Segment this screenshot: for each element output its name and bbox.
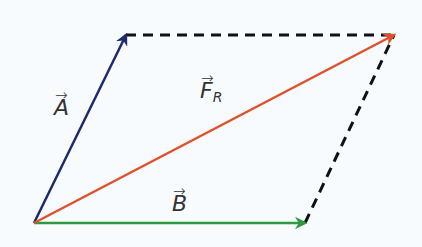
vector-a-label: → A: [54, 97, 69, 119]
vector-fr-arrow: [34, 35, 394, 223]
vector-arrow-icon: →: [201, 71, 214, 86]
vector-fr-label: → FR: [200, 80, 222, 104]
vector-canvas: [0, 0, 422, 247]
vector-a-arrow: [34, 35, 126, 223]
vector-arrow-icon: →: [173, 184, 186, 199]
vector-b-label: → B: [172, 193, 187, 215]
vector-arrow-icon: →: [55, 88, 68, 103]
vector-diagram: → A → FR → B: [0, 0, 422, 247]
vector-fr-subscript: R: [213, 89, 223, 105]
dashed-line-right: [305, 35, 394, 223]
